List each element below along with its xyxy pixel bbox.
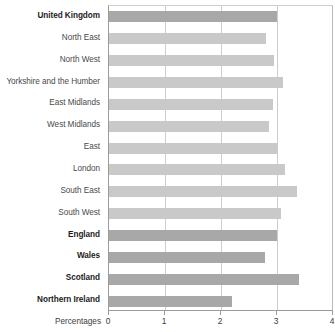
plot-area: [108, 5, 333, 311]
category-label: Scotland: [0, 273, 100, 283]
category-label: United Kingdom: [0, 11, 100, 21]
bar: [109, 99, 273, 110]
x-tick-4: [332, 311, 333, 315]
category-label-column: United KingdomNorth EastNorth WestYorksh…: [0, 0, 104, 332]
category-label: South West: [0, 208, 100, 218]
category-label: North East: [0, 33, 100, 43]
bar: [109, 230, 277, 241]
category-label: Wales: [0, 251, 100, 261]
category-label: North West: [0, 55, 100, 65]
x-tick-3: [276, 311, 277, 315]
bar: [109, 296, 232, 307]
category-label: England: [0, 230, 100, 240]
bar: [109, 252, 265, 263]
category-label: East Midlands: [0, 98, 100, 108]
x-tick-label: 2: [210, 316, 230, 327]
gridline-2: [221, 6, 222, 310]
bar: [109, 121, 269, 132]
x-tick-2: [220, 311, 221, 315]
bar: [109, 11, 277, 22]
x-axis-title: Percentages: [55, 316, 101, 327]
bar: [109, 274, 299, 285]
category-label: West Midlands: [0, 120, 100, 130]
bar: [109, 33, 266, 44]
bar: [109, 208, 281, 219]
bar-chart: United KingdomNorth EastNorth WestYorksh…: [0, 0, 335, 332]
category-label: South East: [0, 186, 100, 196]
x-tick-label: 3: [266, 316, 286, 327]
category-label: Yorkshire and the Humber: [0, 77, 100, 87]
x-tick-label: 4: [322, 316, 335, 327]
bar: [109, 77, 283, 88]
x-tick-1: [164, 311, 165, 315]
category-label: Northern Ireland: [0, 295, 100, 305]
category-label: London: [0, 164, 100, 174]
x-tick-label: 0: [98, 316, 118, 327]
gridline-1: [165, 6, 166, 310]
bar: [109, 186, 297, 197]
gridline-3: [277, 6, 278, 310]
bar: [109, 55, 274, 66]
x-tick-0: [108, 311, 109, 315]
bar: [109, 164, 285, 175]
x-axis-tick-labels: Percentages 01234: [0, 316, 335, 330]
category-label: East: [0, 142, 100, 152]
x-tick-label: 1: [154, 316, 174, 327]
bar: [109, 143, 277, 154]
